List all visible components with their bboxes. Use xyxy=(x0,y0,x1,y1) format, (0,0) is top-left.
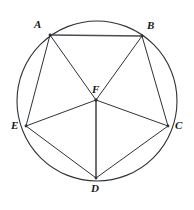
vertex-label-c: C xyxy=(175,120,182,131)
segment-EA xyxy=(26,35,50,126)
vertex-label-a: A xyxy=(34,19,41,30)
segment-DE xyxy=(26,126,96,178)
segment-FA xyxy=(50,35,96,100)
vertex-dot-e xyxy=(25,125,28,128)
vertex-dot-a xyxy=(49,34,52,37)
vertex-label-f: F xyxy=(92,84,99,95)
vertex-label-e: E xyxy=(11,120,18,131)
geometry-figure: ABCDEF xyxy=(0,0,194,210)
geometry-canvas xyxy=(0,0,194,210)
segment-layer xyxy=(26,35,168,178)
segment-BC xyxy=(142,36,168,126)
vertex-dot-d xyxy=(95,177,98,180)
segment-CD xyxy=(96,126,168,178)
segment-AB xyxy=(50,35,142,36)
vertex-dot-c xyxy=(167,125,170,128)
vertex-dot-b xyxy=(141,35,144,38)
segment-FC xyxy=(96,100,168,126)
segment-FE xyxy=(26,100,96,126)
vertex-label-b: B xyxy=(147,20,154,31)
segment-FB xyxy=(96,36,142,100)
vertex-dot-f xyxy=(94,98,97,101)
vertex-label-d: D xyxy=(91,183,99,194)
